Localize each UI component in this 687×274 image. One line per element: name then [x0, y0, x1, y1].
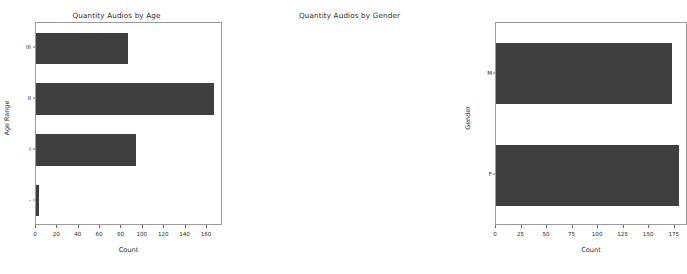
- y-tick-mark: [493, 174, 496, 175]
- x-tick-label: 160: [201, 231, 212, 237]
- x-tick-label: 0: [33, 231, 37, 237]
- x-tick-label: 20: [53, 231, 60, 237]
- y-tick-mark: [33, 98, 36, 99]
- y-tick-label: II: [18, 95, 31, 101]
- x-tick-mark: [56, 225, 57, 228]
- y-tick-mark: [493, 72, 496, 73]
- y-tick-mark: [33, 199, 36, 200]
- x-tick-mark: [495, 225, 496, 228]
- x-tick-mark: [521, 225, 522, 228]
- x-tick-label: 75: [568, 231, 575, 237]
- bar-series-gender: [496, 23, 686, 224]
- bar: [496, 43, 672, 104]
- x-tick-label: 60: [96, 231, 103, 237]
- bar: [496, 145, 679, 206]
- y-tick-label: -: [18, 197, 31, 203]
- y-tick-mark: [33, 47, 36, 48]
- y-tick-label: F: [479, 171, 492, 177]
- x-tick-mark: [597, 225, 598, 228]
- bar-series-age: [36, 23, 221, 224]
- x-tick-mark: [35, 225, 36, 228]
- x-tick-mark: [185, 225, 186, 228]
- x-tick-label: 100: [592, 231, 603, 237]
- y-tick-label: I: [18, 146, 31, 152]
- x-tick-mark: [623, 225, 624, 228]
- x-tick-mark: [648, 225, 649, 228]
- x-tick-mark: [99, 225, 100, 228]
- plot-area-gender: [495, 22, 687, 225]
- chart-panel-age: Quantity Audios by Age Age Range 0204060…: [0, 0, 233, 274]
- bar: [36, 33, 128, 64]
- y-tick-label: M: [479, 70, 492, 76]
- x-tick-label: 40: [74, 231, 81, 237]
- x-tick-label: 80: [117, 231, 124, 237]
- y-axis-label-age: Age Range: [3, 98, 11, 138]
- y-axis-label-gender: Gender: [464, 98, 472, 138]
- x-tick-label: 125: [617, 231, 628, 237]
- bar: [36, 185, 39, 216]
- chart-title-age: Quantity Audios by Age: [0, 11, 233, 20]
- x-tick-mark: [546, 225, 547, 228]
- x-axis-label-gender: Count: [495, 246, 687, 254]
- x-tick-mark: [120, 225, 121, 228]
- x-tick-mark: [674, 225, 675, 228]
- x-tick-label: 120: [158, 231, 169, 237]
- x-tick-label: 150: [643, 231, 654, 237]
- x-tick-mark: [206, 225, 207, 228]
- x-tick-mark: [163, 225, 164, 228]
- y-tick-mark: [33, 148, 36, 149]
- bar: [36, 134, 136, 165]
- x-tick-mark: [78, 225, 79, 228]
- chart-title-gender: Quantity Audios by Gender: [233, 11, 466, 20]
- x-tick-mark: [142, 225, 143, 228]
- x-tick-label: 100: [137, 231, 148, 237]
- chart-panel-gender: Quantity Audios by Gender Gender 0255075…: [233, 0, 466, 274]
- x-axis-label-age: Count: [35, 246, 222, 254]
- x-tick-label: 175: [668, 231, 679, 237]
- x-tick-label: 0: [493, 231, 497, 237]
- x-tick-mark: [572, 225, 573, 228]
- x-tick-label: 50: [543, 231, 550, 237]
- x-tick-label: 140: [179, 231, 190, 237]
- plot-area-age: [35, 22, 222, 225]
- x-tick-label: 25: [517, 231, 524, 237]
- y-tick-label: III: [18, 44, 31, 50]
- bar: [36, 83, 214, 114]
